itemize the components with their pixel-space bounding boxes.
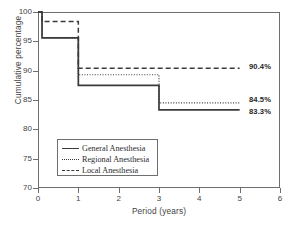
y-tick-100 — [33, 12, 38, 13]
legend-label-local-anesthesia: Local Anesthesia — [82, 166, 138, 175]
legend-swatch-dotted-line — [62, 156, 79, 164]
x-tick-label-6: 6 — [271, 195, 289, 203]
legend-item-general-anesthesia: General Anesthesia — [62, 143, 145, 154]
x-tick-label-1: 1 — [69, 195, 87, 203]
y-tick-90 — [33, 71, 38, 72]
y-tick-85 — [33, 100, 38, 101]
x-tick-label-3: 3 — [150, 195, 168, 203]
x-tick-5 — [240, 188, 241, 193]
y-tick-label-95: 95 — [8, 37, 32, 45]
x-tick-0 — [38, 188, 39, 193]
y-axis-title: Cumulative percentage — [13, 0, 23, 130]
y-tick-95 — [33, 41, 38, 42]
x-tick-label-0: 0 — [29, 195, 47, 203]
x-tick-4 — [199, 188, 200, 193]
x-tick-3 — [159, 188, 160, 193]
x-tick-label-4: 4 — [190, 195, 208, 203]
y-tick-label-100: 100 — [8, 8, 32, 16]
end-label-general-anesthesia: 83.3% — [249, 108, 271, 116]
legend-swatch-solid-line — [62, 145, 79, 153]
figure-kaplan-meier-chart: Cumulative percentage Period (years) 100… — [0, 0, 304, 227]
end-label-regional-anesthesia: 84.5% — [249, 96, 271, 104]
y-tick-75 — [33, 159, 38, 160]
y-tick-label-70: 70 — [8, 184, 32, 192]
y-tick-80 — [33, 129, 38, 130]
x-tick-label-2: 2 — [110, 195, 128, 203]
x-tick-label-5: 5 — [231, 195, 249, 203]
y-tick-label-90: 90 — [8, 67, 32, 75]
legend: General Anesthesia Regional Anesthesia L… — [57, 139, 158, 176]
x-tick-1 — [78, 188, 79, 193]
legend-item-regional-anesthesia: Regional Anesthesia — [62, 154, 149, 165]
x-tick-6 — [280, 188, 281, 193]
y-tick-label-80: 80 — [8, 125, 32, 133]
legend-swatch-dashed-line — [62, 167, 79, 175]
legend-label-general-anesthesia: General Anesthesia — [82, 144, 145, 153]
cropped-caption-remnant — [0, 221, 304, 227]
y-tick-label-85: 85 — [8, 96, 32, 104]
legend-label-regional-anesthesia: Regional Anesthesia — [82, 155, 149, 164]
legend-item-local-anesthesia: Local Anesthesia — [62, 165, 138, 176]
end-label-local-anesthesia: 90.4% — [249, 63, 271, 71]
x-tick-2 — [119, 188, 120, 193]
x-axis-title: Period (years) — [38, 206, 280, 216]
y-tick-label-75: 75 — [8, 155, 32, 163]
